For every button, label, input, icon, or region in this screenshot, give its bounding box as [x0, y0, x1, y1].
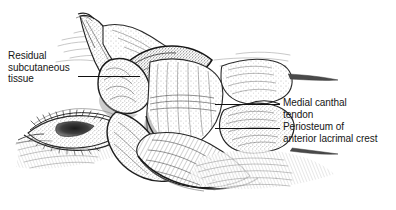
label-residual-line2: subcutaneous [8, 62, 70, 74]
label-periosteum-line1: Periosteum of [283, 121, 377, 133]
label-periosteum-line2: anterior lacrimal crest [283, 133, 377, 145]
medical-illustration-figure: Residual subcutaneous tissue Medial cant… [0, 0, 396, 210]
label-residual-line1: Residual [8, 50, 70, 62]
label-tendon-line2: tendon [283, 109, 347, 121]
label-medial-canthal-tendon: Medial canthal tendon [283, 97, 347, 120]
label-tendon-line1: Medial canthal [283, 97, 347, 109]
label-periosteum-anterior-lacrimal-crest: Periosteum of anterior lacrimal crest [283, 121, 377, 144]
label-residual-line3: tissue [8, 73, 70, 85]
label-residual-subcutaneous-tissue: Residual subcutaneous tissue [8, 50, 70, 85]
